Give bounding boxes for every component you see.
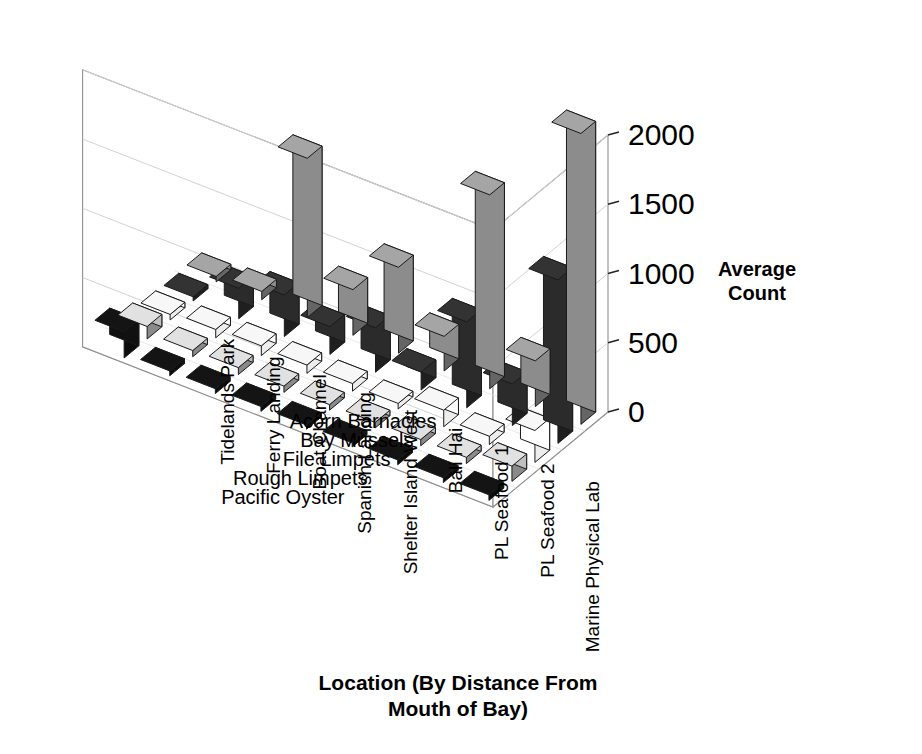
ztick-mark-1000 [608, 271, 619, 274]
bar-face-right [566, 110, 595, 412]
x-axis-title-line2: Mouth of Bay) [388, 697, 528, 720]
ztick-label-0: 0 [628, 395, 645, 428]
ztick-mark-0 [608, 409, 619, 412]
bar-face-right [293, 135, 322, 306]
location-label-shelter-island-west: Shelter Island West [400, 409, 421, 574]
location-label-boat-channel: Boat Channel [309, 374, 330, 489]
z-axis-title-line1: Average [718, 258, 796, 280]
ztick-label-1500: 1500 [628, 187, 695, 220]
location-label-spanish-landing: Spanish Landing [354, 392, 375, 534]
chart-canvas: 0500100015002000AverageCountAcorn Barnac… [0, 0, 922, 754]
ztick-label-2000: 2000 [628, 118, 695, 151]
ztick-mark-2000 [608, 132, 619, 135]
ztick-mark-500 [608, 340, 619, 343]
location-label-marine-physical-lab: Marine Physical Lab [582, 481, 603, 652]
location-label-pl-seafood-1: PL Seafood 1 [491, 446, 512, 560]
x-axis-title-line1: Location (By Distance From [319, 671, 598, 694]
ztick-label-1000: 1000 [628, 257, 695, 290]
z-axis-title-line2: Count [728, 282, 786, 304]
location-label-bali-hai: Bali Hai [445, 428, 466, 493]
ztick-mark-1500 [608, 201, 619, 204]
location-label-pl-seafood-2: PL Seafood 2 [537, 463, 558, 577]
three-d-bar-chart: 0500100015002000AverageCountAcorn Barnac… [0, 0, 922, 754]
location-label-ferry-landing: Ferry Landing [263, 357, 284, 474]
ztick-label-500: 500 [628, 326, 678, 359]
bar-face-right [475, 171, 504, 376]
location-label-tidelands-park: Tidelands Park [217, 338, 238, 465]
